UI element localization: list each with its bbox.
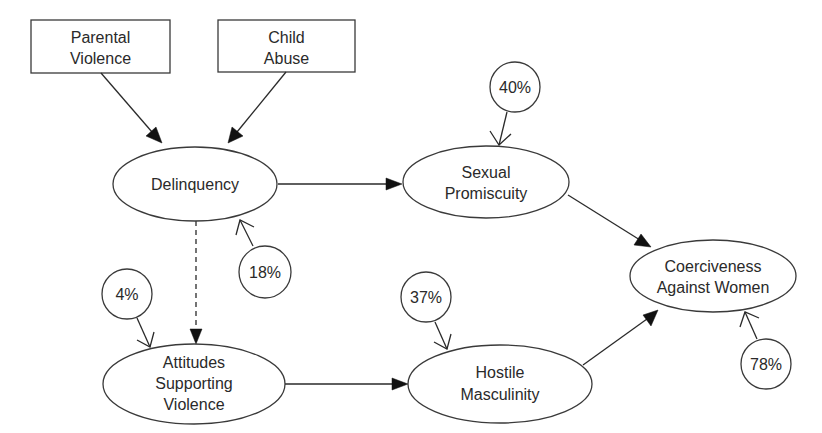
variance-edge-line bbox=[435, 322, 447, 349]
variance-label: 37% bbox=[410, 289, 442, 306]
open-arrowhead-icon bbox=[434, 334, 451, 349]
node-coerciveness-label-1: Coerciveness bbox=[665, 258, 762, 275]
node-sexual-promiscuity: Sexual Promiscuity bbox=[403, 146, 569, 218]
arrowhead-icon bbox=[392, 378, 408, 390]
open-arrowhead-icon bbox=[137, 332, 154, 347]
node-attitudes-label-1: Attitudes bbox=[163, 354, 225, 371]
edge-line bbox=[583, 319, 647, 365]
edge-hostile-masculinity-to-coerciveness bbox=[583, 310, 658, 365]
variance-label: 40% bbox=[499, 79, 531, 96]
node-hostile-masculinity: Hostile Masculinity bbox=[408, 345, 592, 423]
arrowhead-icon bbox=[386, 178, 402, 190]
edge-line bbox=[101, 73, 152, 132]
arrowhead-icon bbox=[228, 127, 243, 143]
node-delinquency-label: Delinquency bbox=[151, 176, 239, 193]
box-child-abuse-label-1: Child bbox=[268, 29, 304, 46]
node-attitudes-label-3: Violence bbox=[163, 396, 224, 413]
edge-delinquency-to-attitudes-dashed bbox=[190, 221, 202, 344]
edge-parental-violence-to-delinquency bbox=[101, 73, 162, 143]
edge-line bbox=[568, 195, 640, 240]
variance-label: 4% bbox=[115, 286, 138, 303]
node-sexual-promiscuity-label-2: Promiscuity bbox=[445, 185, 528, 202]
box-parental-violence-label-2: Violence bbox=[70, 50, 131, 67]
variance-label: 78% bbox=[750, 356, 782, 373]
open-arrowhead-icon bbox=[236, 220, 254, 235]
node-hostile-masculinity-label-1: Hostile bbox=[476, 364, 525, 381]
node-hostile-masculinity-ellipse bbox=[408, 345, 592, 423]
box-child-abuse: Child Abuse bbox=[218, 20, 355, 72]
node-coerciveness-ellipse bbox=[630, 240, 796, 312]
path-diagram: Parental Violence Child Abuse bbox=[0, 0, 822, 433]
open-arrowhead-icon bbox=[740, 312, 759, 327]
edge-delinquency-to-sexual-promiscuity bbox=[278, 178, 402, 190]
variance-sexual-promiscuity: 40% bbox=[490, 62, 540, 145]
node-coerciveness-label-2: Against Women bbox=[657, 279, 770, 296]
node-sexual-promiscuity-ellipse bbox=[403, 146, 569, 218]
variance-hostile-masculinity: 37% bbox=[401, 272, 451, 349]
variance-edge-line bbox=[499, 112, 507, 145]
node-delinquency: Delinquency bbox=[113, 147, 277, 221]
box-child-abuse-label-2: Abuse bbox=[264, 50, 309, 67]
edge-line bbox=[237, 72, 286, 132]
variance-attitudes: 4% bbox=[102, 269, 154, 347]
edge-attitudes-to-hostile-masculinity bbox=[285, 378, 408, 390]
variance-coerciveness: 78% bbox=[740, 312, 791, 389]
node-attitudes-label-2: Supporting bbox=[155, 375, 232, 392]
variance-edge-line bbox=[137, 318, 150, 347]
arrowhead-icon bbox=[634, 234, 651, 247]
node-sexual-promiscuity-label-1: Sexual bbox=[462, 164, 511, 181]
edge-sexual-promiscuity-to-coerciveness bbox=[568, 195, 651, 247]
variance-label: 18% bbox=[249, 264, 281, 281]
box-parental-violence: Parental Violence bbox=[31, 20, 170, 73]
arrowhead-icon bbox=[190, 329, 202, 344]
node-hostile-masculinity-label-2: Masculinity bbox=[460, 386, 539, 403]
variance-delinquency: 18% bbox=[236, 220, 291, 298]
edge-child-abuse-to-delinquency bbox=[228, 72, 286, 143]
arrowhead-icon bbox=[643, 310, 658, 326]
box-parental-violence-label-1: Parental bbox=[71, 29, 131, 46]
node-attitudes-supporting-violence: Attitudes Supporting Violence bbox=[103, 344, 285, 424]
arrowhead-icon bbox=[146, 127, 162, 143]
node-coerciveness-against-women: Coerciveness Against Women bbox=[630, 240, 796, 312]
